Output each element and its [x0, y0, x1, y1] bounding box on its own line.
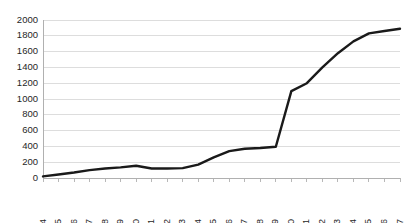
series-line [43, 29, 400, 177]
x-axis-tick-label: 2009 [114, 219, 125, 223]
y-axis-tick-labels: 0200400600800100012001400160018002000 [17, 14, 38, 183]
line-chart: 0200400600800100012001400160018002000 20… [0, 0, 416, 223]
data-series [43, 29, 400, 177]
x-axis-tick-label: 2025 [362, 219, 373, 223]
x-axis-tick-label: 2020 [285, 219, 296, 223]
x-axis-tick-marks [43, 178, 400, 182]
y-axis-tick-label: 0 [33, 172, 38, 183]
x-axis-tick-label: 2027 [394, 219, 405, 223]
y-axis-tick-label: 400 [22, 140, 38, 151]
y-axis-tick-label: 1200 [17, 77, 38, 88]
x-axis-tick-label: 2013 [176, 219, 187, 223]
y-axis-tick-label: 600 [22, 124, 38, 135]
chart-canvas: 0200400600800100012001400160018002000 20… [0, 0, 416, 223]
y-axis-tick-label: 1400 [17, 61, 38, 72]
x-axis-tick-labels: 2004200520062007200820092010201120122013… [37, 219, 405, 223]
x-axis-tick-label: 2015 [207, 219, 218, 223]
x-axis-tick-label: 2010 [130, 219, 141, 223]
x-axis-tick-label: 2004 [37, 219, 48, 223]
x-axis-tick-label: 2006 [68, 219, 79, 223]
x-axis-tick-label: 2005 [52, 219, 63, 223]
x-axis-tick-label: 2023 [331, 219, 342, 223]
x-axis-tick-label: 2018 [254, 219, 265, 223]
x-axis-tick-label: 2017 [238, 219, 249, 223]
x-axis-tick-label: 2014 [192, 219, 203, 223]
x-axis-tick-label: 2024 [347, 219, 358, 223]
x-axis-tick-label: 2021 [300, 219, 311, 223]
y-axis-tick-label: 2000 [17, 14, 38, 25]
x-axis-tick-label: 2019 [269, 219, 280, 223]
y-axis-tick-label: 800 [22, 108, 38, 119]
x-axis-tick-label: 2022 [316, 219, 327, 223]
x-axis-tick-label: 2026 [378, 219, 389, 223]
y-axis-tick-label: 1600 [17, 45, 38, 56]
x-axis-tick-label: 2008 [99, 219, 110, 223]
y-axis-tick-label: 1000 [17, 93, 38, 104]
x-axis-tick-label: 2012 [161, 219, 172, 223]
x-axis-tick-label: 2007 [83, 219, 94, 223]
x-axis-tick-label: 2011 [145, 219, 156, 223]
y-axis-tick-label: 1800 [17, 29, 38, 40]
x-axis-tick-label: 2016 [223, 219, 234, 223]
y-axis-tick-label: 200 [22, 156, 38, 167]
